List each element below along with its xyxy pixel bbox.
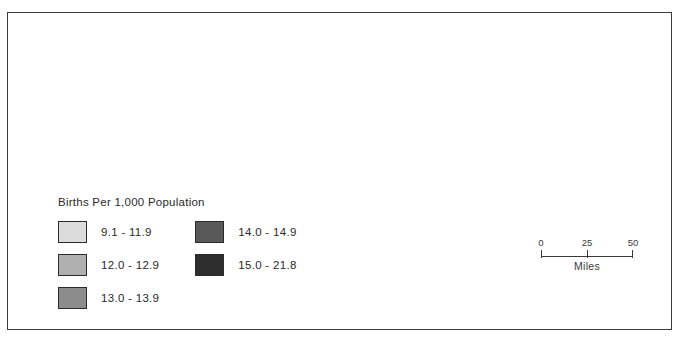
scale-tick-label: 50 (628, 237, 639, 248)
legend-item-label: 13.0 - 13.9 (101, 292, 159, 304)
legend-title: Births Per 1,000 Population (58, 196, 388, 208)
legend-column-1: 9.1 - 11.9 12.0 - 12.9 13.0 - 13.9 (58, 221, 159, 309)
scale-tick (587, 250, 588, 258)
legend: Births Per 1,000 Population 9.1 - 11.9 1… (58, 196, 388, 309)
legend-swatch (58, 254, 87, 276)
scale-unit-label: Miles (541, 260, 633, 272)
legend-item: 14.0 - 14.9 (195, 221, 296, 243)
legend-swatch (195, 221, 224, 243)
scale-tick (541, 250, 542, 258)
legend-swatch (58, 221, 87, 243)
legend-item-label: 15.0 - 21.8 (238, 259, 296, 271)
legend-column-2: 14.0 - 14.9 15.0 - 21.8 (195, 221, 296, 309)
map-figure: Births Per 1,000 Population 9.1 - 11.9 1… (0, 0, 680, 342)
scale-tick (632, 250, 633, 258)
scale-bar-axis (541, 250, 637, 259)
scale-tick-label: 0 (538, 237, 543, 248)
legend-item: 12.0 - 12.9 (58, 254, 159, 276)
legend-item-label: 9.1 - 11.9 (101, 226, 152, 238)
scale-tick-labels: 0 25 50 (541, 237, 637, 250)
legend-item: 9.1 - 11.9 (58, 221, 159, 243)
legend-item: 15.0 - 21.8 (195, 254, 296, 276)
legend-swatch (195, 254, 224, 276)
legend-item-label: 12.0 - 12.9 (101, 259, 159, 271)
scale-bar: 0 25 50 Miles (541, 237, 637, 272)
legend-item: 13.0 - 13.9 (58, 287, 159, 309)
legend-item-label: 14.0 - 14.9 (238, 226, 296, 238)
legend-swatch (58, 287, 87, 309)
scale-tick-label: 25 (582, 237, 593, 248)
